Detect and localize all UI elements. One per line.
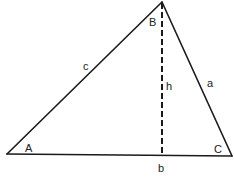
triangle-diagram: A B C a b c h bbox=[0, 0, 234, 178]
vertex-a-label: A bbox=[25, 142, 33, 154]
side-a-label: a bbox=[207, 77, 214, 89]
side-c-label: c bbox=[83, 60, 89, 72]
side-b-label: b bbox=[158, 162, 164, 174]
side-b-line bbox=[7, 154, 232, 156]
vertex-b-label: B bbox=[149, 16, 156, 28]
side-a-line bbox=[162, 2, 232, 156]
side-c-line bbox=[7, 2, 162, 154]
vertex-c-label: C bbox=[214, 143, 222, 155]
altitude-h-label: h bbox=[166, 80, 172, 92]
